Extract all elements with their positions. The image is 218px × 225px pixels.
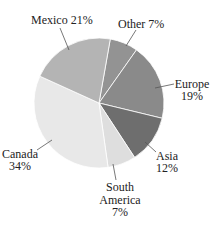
label-south-america-pct: 7% xyxy=(112,205,128,219)
leader-mexico xyxy=(60,28,69,50)
leader-other xyxy=(126,30,136,46)
label-europe-pct: 19% xyxy=(181,89,203,103)
label-south-america-line1: South xyxy=(106,180,134,194)
label-other: Other 7% xyxy=(118,17,164,31)
label-mexico: Mexico 21% xyxy=(31,13,93,27)
label-asia-pct: 12% xyxy=(156,161,178,175)
label-canada-pct: 34% xyxy=(9,159,31,173)
pie xyxy=(34,38,164,168)
pie-chart: Mexico 21% Other 7% Europe 19% Asia 12% … xyxy=(0,0,218,225)
